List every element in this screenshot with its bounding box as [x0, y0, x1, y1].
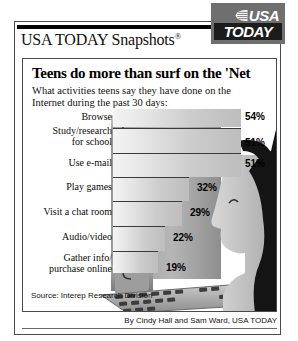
- logo-today-text: TODAY: [224, 24, 273, 39]
- logo-usa-text: USA: [249, 8, 279, 23]
- bar: [113, 109, 241, 127]
- logo-usa-row: USA: [214, 7, 282, 23]
- row-label-line2: purchase online: [49, 263, 112, 274]
- table-row: Play games 32%: [23, 177, 277, 201]
- table-row: Visit a chat room 29%: [23, 201, 277, 225]
- row-label-line1: Study/research: [53, 125, 112, 136]
- value-label: 32%: [197, 183, 217, 193]
- row-label-line2: for school: [72, 136, 112, 147]
- value-label: 22%: [173, 233, 193, 243]
- row-label: Use e-mail: [22, 158, 112, 169]
- value-label: 51%: [245, 138, 265, 148]
- bar: [113, 226, 165, 251]
- row-label: Play games: [22, 182, 112, 193]
- row-label: Visit a chat room: [22, 207, 112, 218]
- bar: [113, 177, 189, 201]
- row-label: Audio/video: [22, 232, 112, 243]
- credit-line: By Cindy Hall and Sam Ward, USA TODAY: [22, 316, 277, 326]
- logo-today-bar: TODAY: [214, 23, 282, 40]
- value-label: 19%: [166, 263, 186, 273]
- value-label: 51%: [245, 159, 265, 169]
- row-label-line1: Gather info/: [63, 252, 112, 263]
- bar: [113, 153, 241, 177]
- logo-inner: USA TODAY: [214, 6, 282, 41]
- bar-chart: Browse 54% Study/research for school 51%…: [23, 109, 277, 294]
- table-row: Use e-mail 51%: [23, 153, 277, 177]
- registered-mark: ®: [175, 31, 182, 41]
- value-label: 54%: [245, 112, 265, 122]
- table-row: Gather info/ purchase online 19%: [23, 251, 277, 275]
- usa-today-snapshot: USA TODAY Snapshots® USA TODAY Teens do …: [0, 0, 298, 341]
- row-label: Study/research for school: [22, 126, 112, 147]
- value-label: 29%: [190, 208, 210, 218]
- source-note: Source: Interep Research Division: [31, 291, 152, 301]
- row-label: Browse: [22, 112, 112, 123]
- chart-panel: Teens do more than surf on the 'Net What…: [22, 58, 277, 312]
- page-title: Teens do more than surf on the 'Net: [32, 65, 270, 82]
- chart-subtitle: What activities teens say they have done…: [32, 85, 252, 108]
- table-row: Audio/video 22%: [23, 226, 277, 250]
- bar: [113, 128, 241, 153]
- bar: [113, 201, 182, 226]
- usa-today-logo: USA TODAY: [211, 3, 285, 44]
- table-row: Study/research for school 51%: [23, 128, 277, 152]
- usa-today-globe-icon: [235, 9, 248, 22]
- credit-rule: [22, 328, 277, 329]
- bar: [113, 251, 158, 273]
- masthead-title-text: USA TODAY Snapshots: [21, 31, 175, 48]
- row-label: Gather info/ purchase online: [22, 253, 112, 274]
